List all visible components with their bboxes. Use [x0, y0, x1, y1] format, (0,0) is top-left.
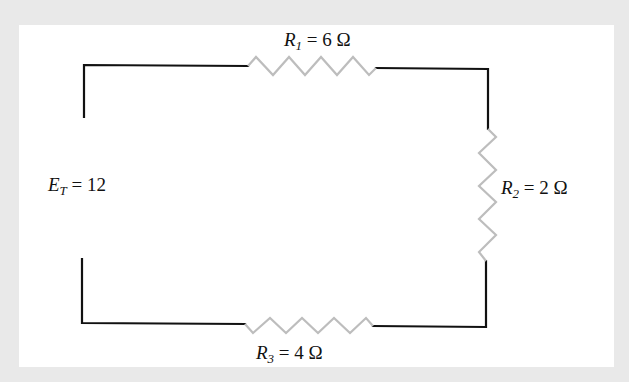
resistor-r2-icon	[479, 129, 496, 261]
r3-equals: =	[279, 342, 290, 363]
r2-equals: =	[524, 177, 535, 198]
top-left-wire	[84, 65, 248, 117]
label-r1: R1 = 6 Ω	[284, 30, 351, 52]
source-value: 12	[87, 174, 106, 195]
source-equals: =	[72, 174, 83, 195]
r3-symbol: R	[256, 342, 268, 363]
label-r3: R3 = 4 Ω	[256, 343, 323, 365]
r2-value: 2 Ω	[539, 177, 567, 198]
label-r2: R2 = 2 Ω	[501, 178, 568, 200]
r1-subscript: 1	[296, 38, 303, 53]
resistors	[245, 57, 496, 333]
r1-symbol: R	[284, 29, 296, 50]
r1-equals: =	[307, 29, 318, 50]
r3-subscript: 3	[268, 351, 275, 366]
source-subscript: T	[60, 183, 67, 198]
r2-symbol: R	[501, 177, 513, 198]
r1-value: 6 Ω	[322, 29, 350, 50]
source-symbol: E	[48, 174, 60, 195]
resistor-r1-icon	[248, 57, 376, 75]
r3-value: 4 Ω	[294, 342, 322, 363]
wires	[82, 65, 488, 327]
bottom-right-wire	[373, 261, 486, 327]
bottom-left-wire	[82, 259, 245, 324]
top-right-wire	[376, 68, 488, 129]
label-source: ET = 12	[48, 175, 106, 197]
r2-subscript: 2	[513, 186, 520, 201]
resistor-r3-icon	[245, 318, 373, 333]
